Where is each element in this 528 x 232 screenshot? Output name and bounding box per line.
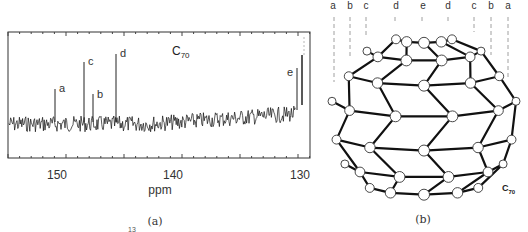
c70-molecule-drawing [0,0,528,232]
caption-b: (b) [415,213,431,226]
molecule-label: C70 [502,183,515,195]
